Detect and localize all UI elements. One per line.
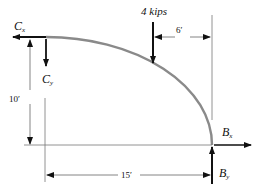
by-label: By <box>219 166 230 181</box>
load-label: 4 kips <box>141 5 167 17</box>
free-body-diagram: Cx Cy 4 kips 6′ 10′ 15′ Bx By <box>0 0 259 187</box>
load-offset-label: 6′ <box>176 25 183 35</box>
width-label: 15′ <box>121 170 132 180</box>
curved-member <box>46 37 212 145</box>
height-label: 10′ <box>9 94 20 104</box>
cx-label: Cx <box>14 19 26 34</box>
diagram-canvas: Cx Cy 4 kips 6′ 10′ 15′ Bx By <box>0 0 259 187</box>
cy-label: Cy <box>42 72 54 87</box>
bx-label: Bx <box>222 125 233 140</box>
